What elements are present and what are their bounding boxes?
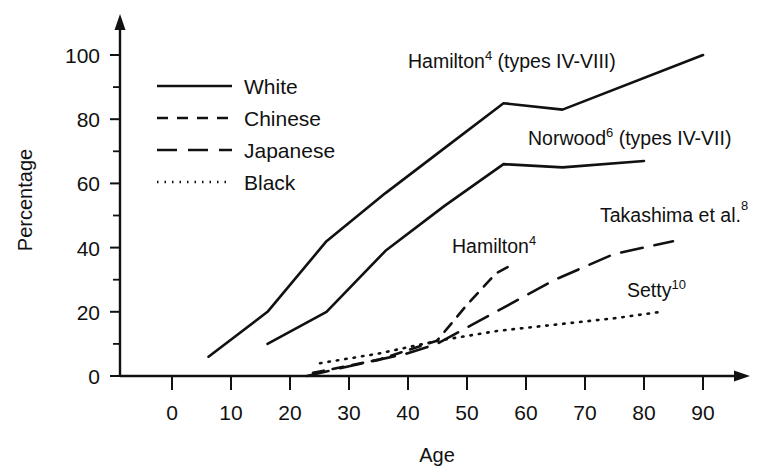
y-tick-label-100: 100: [65, 44, 100, 67]
y-tick-label-80: 80: [77, 108, 100, 131]
annotation-hamilton-iv-viii-tail: (types IV-VIII): [492, 50, 616, 72]
annotation-hamilton-chinese-base: Hamilton: [452, 235, 529, 257]
annotation-hamilton-chinese-sup: 4: [529, 233, 536, 248]
annotation-takashima-sup: 8: [741, 198, 748, 213]
legend-label-white: White: [244, 75, 298, 98]
y-axis-ticks: [110, 55, 120, 376]
x-tick-label-70: 70: [573, 401, 596, 424]
annotation-hamilton-iv-viii-sup: 4: [485, 48, 492, 63]
annotation-setty-sup: 10: [671, 277, 685, 292]
annotation-hamilton-chinese: Hamilton4: [452, 233, 536, 257]
y-axis-tick-labels: 0 20 40 60 80 100: [65, 44, 100, 388]
annotation-hamilton-iv-viii-base: Hamilton: [408, 50, 485, 72]
legend-item-black: Black: [157, 171, 296, 194]
annotation-norwood-tail: (types IV-VII): [613, 127, 731, 149]
x-axis-ticks: [172, 376, 703, 390]
series-line-setty: [320, 312, 660, 363]
x-tick-label-10: 10: [219, 401, 242, 424]
x-tick-label-50: 50: [455, 401, 478, 424]
x-tick-label-40: 40: [396, 401, 419, 424]
legend: White Chinese Japanese Black: [157, 75, 335, 194]
annotation-hamilton-iv-viii: Hamilton4 (types IV-VIII): [408, 48, 616, 72]
annotation-setty-base: Setty: [627, 279, 672, 301]
x-axis-arrowhead: [734, 371, 750, 382]
chart-svg: 0 20 40 60 80 100 0 10 20 30 40: [0, 0, 783, 476]
chart-figure: 0 20 40 60 80 100 0 10 20 30 40: [0, 0, 783, 476]
y-tick-label-0: 0: [88, 365, 100, 388]
legend-item-chinese: Chinese: [157, 107, 321, 130]
x-tick-label-90: 90: [691, 401, 714, 424]
x-axis-title: Age: [419, 444, 455, 466]
legend-label-chinese: Chinese: [244, 107, 321, 130]
annotation-setty: Setty10: [627, 277, 686, 301]
annotation-norwood-sup: 6: [606, 125, 613, 140]
x-tick-label-60: 60: [514, 401, 537, 424]
y-axis-arrowhead: [115, 14, 126, 30]
legend-item-japanese: Japanese: [157, 139, 335, 162]
legend-item-white: White: [157, 75, 298, 98]
annotation-takashima-base: Takashima et al.: [600, 204, 741, 226]
annotation-norwood: Norwood6 (types IV-VII): [528, 125, 731, 149]
y-tick-label-60: 60: [77, 172, 100, 195]
x-tick-label-0: 0: [166, 401, 178, 424]
legend-label-japanese: Japanese: [244, 139, 335, 162]
x-tick-label-20: 20: [278, 401, 301, 424]
annotation-takashima: Takashima et al.8: [600, 198, 748, 226]
x-tick-label-80: 80: [632, 401, 655, 424]
y-axis-title: Percentage: [14, 149, 36, 251]
x-tick-label-30: 30: [337, 401, 360, 424]
annotation-norwood-base: Norwood: [528, 127, 606, 149]
y-tick-label-20: 20: [77, 301, 100, 324]
y-tick-label-40: 40: [77, 237, 100, 260]
legend-label-black: Black: [244, 171, 296, 194]
x-axis-tick-labels: 0 10 20 30 40 50 60 70 80 90: [166, 401, 715, 424]
